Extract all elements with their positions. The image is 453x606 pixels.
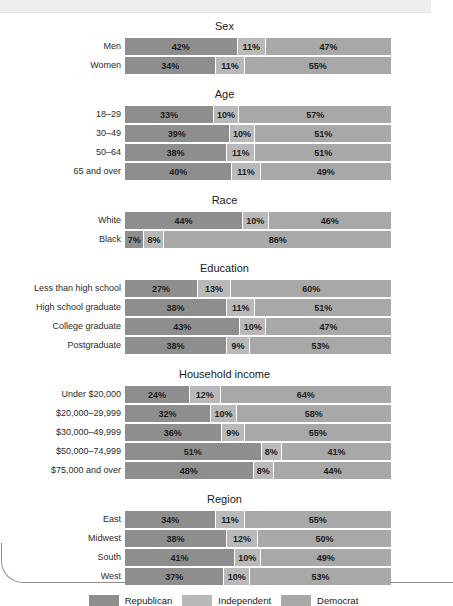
bar-segment-republican: 37% (125, 568, 223, 585)
chart-row: 50–6438%11%51% (0, 144, 431, 161)
chart-bar: 41%10%49% (125, 549, 391, 566)
bar-segment-independent: 10% (229, 125, 256, 142)
chart-bar: 51%8%41% (125, 443, 391, 460)
bar-segment-republican: 27% (125, 280, 197, 297)
chart-row-label: Under $20,000 (0, 386, 125, 403)
chart-bar: 7%8%86% (125, 231, 391, 248)
bar-segment-democrat: 58% (237, 405, 391, 422)
chart-bar: 38%9%53% (125, 337, 391, 354)
bar-segment-independent: 10% (213, 106, 240, 123)
chart-group-title: Age (0, 88, 431, 101)
bar-segment-republican: 38% (125, 299, 226, 316)
bar-segment-republican: 36% (125, 424, 221, 441)
bar-segment-democrat: 41% (282, 443, 391, 460)
bar-segment-democrat: 55% (245, 57, 391, 74)
bar-segment-independent: 8% (253, 462, 274, 479)
bar-segment-independent: 11% (231, 163, 260, 180)
chart-row-label: $30,000–49,999 (0, 424, 125, 441)
chart-row-label: 30–49 (0, 125, 125, 142)
chart-group: SexMen42%11%47%Women34%11%55% (0, 20, 431, 74)
chart-row: 18–2933%10%57% (0, 106, 431, 123)
stacked-bar-chart: SexMen42%11%47%Women34%11%55%Age18–2933%… (0, 14, 431, 599)
chart-row: Less than high school27%13%60% (0, 280, 431, 297)
bar-segment-republican: 38% (125, 530, 226, 547)
bar-segment-independent: 11% (226, 299, 255, 316)
bar-segment-independent: 10% (210, 405, 237, 422)
chart-row: East34%11%55% (0, 511, 431, 528)
chart-row: College graduate43%10%47% (0, 318, 431, 335)
chart-row: $20,000–29,99932%10%58% (0, 405, 431, 422)
bar-segment-independent: 13% (197, 280, 232, 297)
bar-segment-independent: 12% (226, 530, 258, 547)
bar-segment-independent: 10% (242, 212, 269, 229)
chart-row-label: West (0, 568, 125, 585)
bar-segment-independent: 11% (226, 144, 255, 161)
bar-segment-independent: 10% (223, 568, 250, 585)
chart-row: Women34%11%55% (0, 57, 431, 74)
bar-segment-republican: 7% (125, 231, 143, 248)
bar-segment-independent: 9% (226, 337, 250, 354)
legend-item-democrat: Democrat (281, 595, 358, 606)
chart-row-label: Men (0, 38, 125, 55)
chart-row-label: Black (0, 231, 125, 248)
bar-segment-independent: 11% (215, 57, 244, 74)
bar-segment-republican: 40% (125, 163, 231, 180)
chart-group-rows: White44%10%46%Black7%8%86% (0, 212, 431, 248)
legend-swatch-icon (281, 595, 311, 606)
chart-row-label: $50,000–74,999 (0, 443, 125, 460)
chart-bar: 34%11%55% (125, 511, 391, 528)
chart-bar: 38%11%51% (125, 144, 391, 161)
bar-segment-democrat: 51% (255, 144, 391, 161)
chart-row: 65 and over40%11%49% (0, 163, 431, 180)
chart-group-title: Region (0, 493, 431, 506)
chart-groups: SexMen42%11%47%Women34%11%55%Age18–2933%… (0, 20, 431, 585)
chart-bar: 27%13%60% (125, 280, 391, 297)
bar-segment-democrat: 46% (269, 212, 391, 229)
legend-item-independent: Independent (182, 595, 271, 606)
bar-segment-independent: 10% (239, 318, 266, 335)
bar-segment-democrat: 55% (245, 511, 391, 528)
chart-row: Men42%11%47% (0, 38, 431, 55)
chart-bar: 33%10%57% (125, 106, 391, 123)
bar-segment-democrat: 50% (258, 530, 391, 547)
bar-segment-democrat: 53% (250, 568, 391, 585)
chart-legend: RepublicanIndependentDemocrat (0, 595, 431, 606)
bar-segment-republican: 24% (125, 386, 189, 403)
chart-row: High school graduate38%11%51% (0, 299, 431, 316)
bar-segment-democrat: 47% (266, 38, 391, 55)
bar-segment-independent: 11% (237, 38, 266, 55)
chart-row: West37%10%53% (0, 568, 431, 585)
chart-row-label: Less than high school (0, 280, 125, 297)
chart-row: 30–4939%10%51% (0, 125, 431, 142)
scan-top-band-edge (0, 12, 431, 13)
bar-segment-democrat: 51% (255, 299, 391, 316)
bar-segment-democrat: 86% (164, 231, 390, 248)
chart-row: Under $20,00024%12%64% (0, 386, 431, 403)
chart-group: EducationLess than high school27%13%60%H… (0, 262, 431, 354)
bar-segment-republican: 38% (125, 144, 226, 161)
bar-segment-republican: 43% (125, 318, 239, 335)
bar-segment-republican: 42% (125, 38, 237, 55)
scan-top-band (0, 0, 431, 12)
chart-group: Age18–2933%10%57%30–4939%10%51%50–6438%1… (0, 88, 431, 180)
bar-segment-democrat: 57% (239, 106, 391, 123)
chart-row: White44%10%46% (0, 212, 431, 229)
bar-segment-democrat: 44% (274, 462, 391, 479)
chart-row-label: College graduate (0, 318, 125, 335)
bar-segment-republican: 48% (125, 462, 253, 479)
chart-row-label: Postgraduate (0, 337, 125, 354)
chart-row-label: East (0, 511, 125, 528)
chart-row: Postgraduate38%9%53% (0, 337, 431, 354)
legend-swatch-icon (182, 595, 212, 606)
chart-row-label: $75,000 and over (0, 462, 125, 479)
bar-segment-independent: 12% (189, 386, 221, 403)
chart-bar: 38%12%50% (125, 530, 391, 547)
chart-bar: 37%10%53% (125, 568, 391, 585)
chart-group-title: Household income (0, 368, 431, 381)
chart-row-label: Women (0, 57, 125, 74)
chart-group-rows: Under $20,00024%12%64%$20,000–29,99932%1… (0, 386, 431, 479)
chart-row-label: $20,000–29,999 (0, 405, 125, 422)
chart-bar: 48%8%44% (125, 462, 391, 479)
chart-group-rows: East34%11%55%Midwest38%12%50%South41%10%… (0, 511, 431, 585)
